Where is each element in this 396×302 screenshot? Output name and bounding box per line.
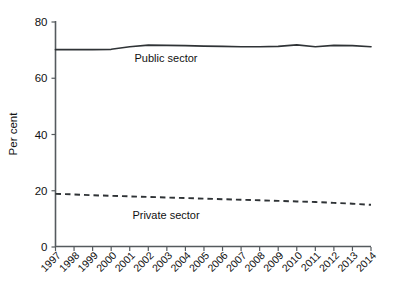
y-tick-label: 0 [41,241,47,253]
y-tick-label: 60 [35,72,48,84]
public-sector-label: Public sector [135,52,198,64]
series-line-private-sector [56,194,372,205]
axis-group [56,21,372,247]
series-line-public-sector [56,45,372,50]
y-tick-label: 40 [35,129,48,141]
y-tick-group: 020406080 [35,16,56,253]
line-chart: 020406080 199719981999200020012002200320… [0,0,396,302]
private-sector-label: Private sector [132,209,200,221]
x-tick-label: 2011 [298,249,323,274]
x-tick-group: 1997199819992000200120022003200420052006… [38,247,379,274]
chart-container: 020406080 199719981999200020012002200320… [0,0,396,302]
y-axis-title: Per cent [7,112,19,156]
x-tick-label: 2014 [353,249,378,274]
y-tick-label: 80 [35,16,48,28]
y-tick-label: 20 [35,185,48,197]
